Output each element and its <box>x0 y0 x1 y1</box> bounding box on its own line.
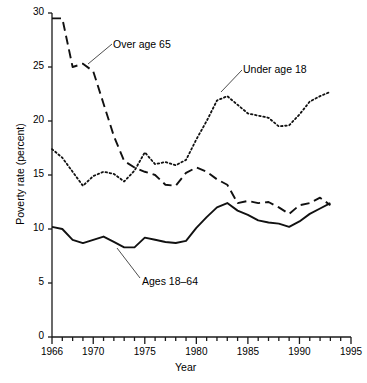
x-tick-label: 1980 <box>176 346 216 357</box>
x-tick-label: 1995 <box>331 346 367 357</box>
y-tick-label: 30 <box>18 6 44 17</box>
chart-series-lines <box>52 18 330 247</box>
y-tick-label: 20 <box>18 114 44 125</box>
annotation-under-age-18: Under age 18 <box>243 63 307 75</box>
x-axis-ticks <box>52 337 351 344</box>
chart-axes <box>52 13 351 337</box>
x-tick-label: 1985 <box>228 346 268 357</box>
x-tick-label: 1990 <box>279 346 319 357</box>
x-tick-label: 1975 <box>125 346 165 357</box>
y-tick-label: 5 <box>18 276 44 287</box>
y-tick-label: 15 <box>18 168 44 179</box>
x-tick-label: 1970 <box>73 346 113 357</box>
x-axis-label: Year <box>175 361 196 373</box>
annotation-over-age-65: Over age 65 <box>113 38 171 50</box>
y-tick-label: 0 <box>18 330 44 341</box>
series-line-ages-18-64 <box>52 203 330 247</box>
x-tick-label: 1966 <box>32 346 72 357</box>
annotation-leader-lines <box>88 44 242 278</box>
y-tick-label: 10 <box>18 222 44 233</box>
series-line-over-age-65 <box>52 18 330 213</box>
y-tick-label: 25 <box>18 60 44 71</box>
series-line-under-age-18 <box>52 92 330 186</box>
annotation-ages-18-64: Ages 18–64 <box>142 275 198 287</box>
